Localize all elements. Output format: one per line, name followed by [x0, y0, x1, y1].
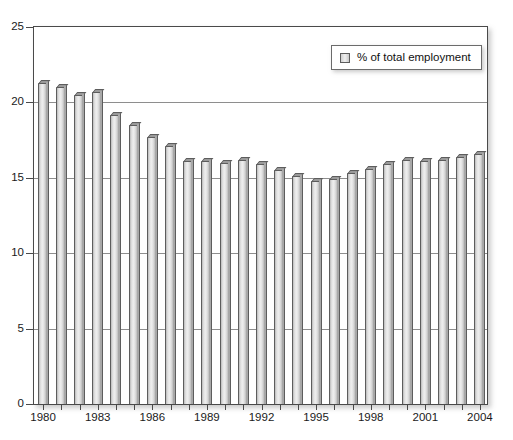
bar-side-face	[246, 159, 249, 404]
y-tick-label: 25	[11, 21, 24, 33]
bar-2004	[474, 154, 483, 404]
bar-1995	[311, 181, 320, 404]
bar-side-face	[300, 175, 303, 404]
bar-side-face	[482, 153, 485, 404]
bar-1981	[56, 87, 65, 404]
bar-side-face	[337, 178, 340, 404]
chart-legend: % of total employment	[331, 45, 482, 70]
bar-side-face	[137, 124, 140, 404]
x-tick-mark	[425, 405, 426, 410]
bar-1998	[365, 169, 374, 404]
bar-side-face	[264, 163, 267, 404]
bar-1982	[74, 95, 83, 404]
y-tick-mark	[26, 27, 33, 28]
y-tick-mark	[26, 329, 33, 330]
bar-side-face	[464, 156, 467, 404]
bar-1997	[347, 173, 356, 404]
x-tick-label: 1989	[194, 412, 220, 424]
bar-2000	[402, 160, 411, 404]
bar-side-face	[446, 159, 449, 404]
bar-1988	[183, 161, 192, 404]
bar-2001	[420, 161, 429, 404]
bar-1999	[383, 164, 392, 404]
x-tick-label: 2001	[413, 412, 439, 424]
y-tick-mark	[26, 404, 33, 405]
x-tick-mark	[480, 405, 481, 410]
x-tick-mark	[116, 405, 117, 410]
bar-1986	[147, 137, 156, 404]
y-tick-mark	[26, 102, 33, 103]
x-tick-label: 1980	[30, 412, 56, 424]
bar-side-face	[355, 172, 358, 404]
x-tick-mark	[353, 405, 354, 410]
bar-1996	[329, 179, 338, 404]
bar-side-face	[282, 169, 285, 404]
x-tick-mark	[462, 405, 463, 410]
bar-1985	[129, 125, 138, 404]
y-tick-label: 0	[18, 398, 24, 410]
x-tick-label: 1995	[303, 412, 329, 424]
x-tick-label: 1992	[249, 412, 275, 424]
x-tick-mark	[80, 405, 81, 410]
x-tick-mark	[98, 405, 99, 410]
x-tick-mark	[407, 405, 408, 410]
x-tick-mark	[334, 405, 335, 410]
bar-1991	[238, 160, 247, 404]
bar-side-face	[228, 162, 231, 404]
bar-1983	[92, 92, 101, 404]
bar-2002	[438, 160, 447, 404]
x-tick-mark	[444, 405, 445, 410]
x-tick-label: 1998	[358, 412, 384, 424]
bar-1992	[256, 164, 265, 404]
y-tick-label: 15	[11, 172, 24, 184]
bar-1984	[110, 115, 119, 405]
x-tick-mark	[207, 405, 208, 410]
legend-label: % of total employment	[357, 52, 471, 64]
bar-side-face	[82, 94, 85, 404]
bar-1993	[274, 170, 283, 404]
x-tick-mark	[298, 405, 299, 410]
x-tick-mark	[152, 405, 153, 410]
x-tick-mark	[243, 405, 244, 410]
bar-1990	[220, 163, 229, 404]
bar-side-face	[373, 168, 376, 404]
x-tick-mark	[43, 405, 44, 410]
x-tick-mark	[61, 405, 62, 410]
x-tick-mark	[262, 405, 263, 410]
bar-side-face	[46, 82, 49, 404]
x-tick-label: 1983	[85, 412, 111, 424]
bar-side-face	[191, 160, 194, 404]
y-tick-mark	[26, 253, 33, 254]
legend-swatch-icon	[340, 53, 350, 63]
bar-side-face	[209, 160, 212, 404]
x-tick-mark	[371, 405, 372, 410]
y-tick-label: 5	[18, 323, 24, 335]
bar-side-face	[173, 145, 176, 404]
x-tick-label: 1986	[140, 412, 166, 424]
plot-inner	[34, 27, 487, 404]
bar-1987	[165, 146, 174, 404]
x-tick-mark	[225, 405, 226, 410]
x-tick-mark	[280, 405, 281, 410]
x-tick-mark	[134, 405, 135, 410]
bar-1994	[292, 176, 301, 404]
bar-2003	[456, 157, 465, 404]
bar-side-face	[118, 114, 121, 405]
plot-area	[33, 26, 488, 405]
bar-1989	[201, 161, 210, 404]
employment-share-bar-chart: 0510152025 19801983198619891992199519982…	[0, 0, 513, 440]
x-tick-mark	[171, 405, 172, 410]
bar-side-face	[100, 91, 103, 404]
bar-1980	[38, 83, 47, 404]
y-tick-mark	[26, 178, 33, 179]
x-tick-mark	[316, 405, 317, 410]
y-tick-label: 10	[11, 247, 24, 259]
x-tick-label: 2004	[467, 412, 493, 424]
x-axis-labels: 198019831986198919921995199820012004	[0, 412, 513, 432]
bar-side-face	[410, 159, 413, 404]
x-tick-mark	[389, 405, 390, 410]
y-axis: 0510152025	[0, 0, 33, 440]
y-tick-label: 20	[11, 97, 24, 109]
bar-side-face	[155, 136, 158, 404]
x-tick-mark	[189, 405, 190, 410]
